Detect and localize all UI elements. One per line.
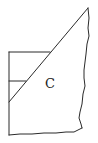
bottom-torn-edge [9, 128, 82, 135]
right-torn-edge [79, 8, 89, 128]
region-label: C [45, 77, 55, 90]
diagram-canvas [0, 0, 98, 143]
